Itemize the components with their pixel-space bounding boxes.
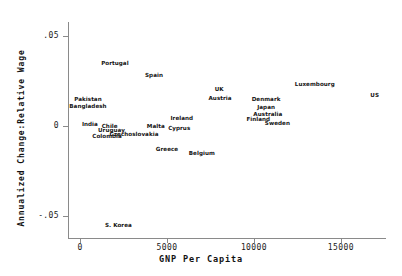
data-point-label: Cyprus — [168, 125, 190, 131]
data-point-label: Portugal — [101, 60, 128, 66]
y-tick-label: -.05 — [38, 211, 59, 220]
data-point-label: Denmark — [252, 96, 281, 102]
data-point-label: Ireland — [170, 115, 193, 121]
data-point-label: Spain — [145, 72, 163, 78]
data-point-label: Malta — [147, 123, 165, 129]
data-point-label: Colombia — [92, 133, 122, 139]
y-tick-mark — [63, 126, 68, 127]
x-axis-title: GNP Per Capita — [0, 254, 402, 264]
data-point-label: Bangladesh — [69, 103, 106, 109]
y-tick-mark — [63, 216, 68, 217]
x-tick-label: 0 — [78, 243, 83, 252]
data-point-label: Pakistan — [74, 96, 102, 102]
scatter-plot-figure: .050-.05 050001000015000 PortugalSpainUK… — [0, 0, 402, 276]
data-point-label: India — [82, 121, 98, 127]
data-point-label: US — [370, 92, 379, 98]
y-tick-label: .05 — [43, 31, 59, 40]
x-axis-line — [68, 238, 386, 239]
data-point-label: Luxembourg — [295, 81, 335, 87]
y-tick-mark — [63, 36, 68, 37]
data-point-label: Belgium — [189, 150, 215, 156]
x-tick-label: 5000 — [157, 243, 178, 252]
y-axis-title: Annualized Change:Relative Wage — [14, 0, 30, 276]
data-point-label: UK — [215, 86, 224, 92]
y-tick-label: 0 — [54, 121, 59, 130]
data-point-label: Japan — [257, 104, 275, 110]
data-point-label: Austria — [208, 95, 231, 101]
x-tick-label: 10000 — [241, 243, 267, 252]
data-point-label: Sweden — [265, 120, 290, 126]
x-tick-label: 15000 — [328, 243, 354, 252]
y-axis-line — [68, 22, 69, 238]
data-point-label: Greece — [156, 146, 178, 152]
data-point-label: S. Korea — [105, 222, 132, 228]
